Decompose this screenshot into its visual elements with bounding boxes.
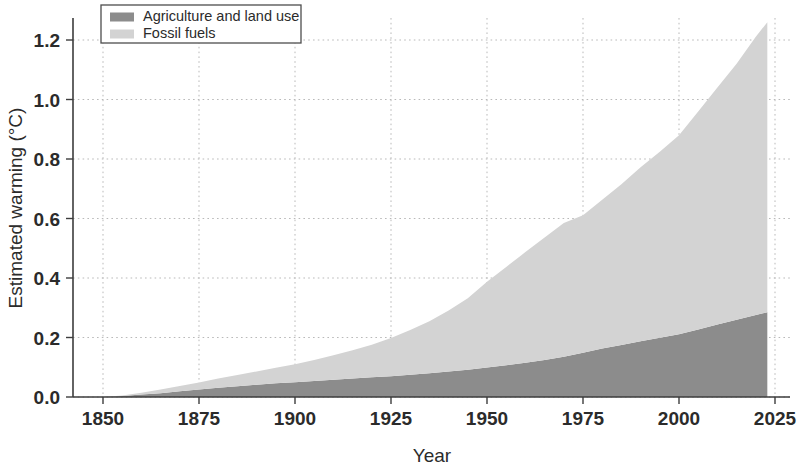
x-tick-label-1875: 1875 xyxy=(178,408,221,429)
y-tick-label-1-2: 1.2 xyxy=(34,30,60,51)
x-tick-label-1975: 1975 xyxy=(562,408,605,429)
x-axis-title: Year xyxy=(413,445,452,466)
y-tick-label-0-4: 0.4 xyxy=(34,268,61,289)
y-tick-label-0-8: 0.8 xyxy=(34,149,60,170)
x-tick-label-1850: 1850 xyxy=(82,408,124,429)
stacked-area-chart: 18501875190019251950197520002025 0.00.20… xyxy=(0,0,798,473)
x-tick-label-1925: 1925 xyxy=(370,408,413,429)
legend-label-fossil-fuels: Fossil fuels xyxy=(143,25,216,41)
legend-label-agriculture-and-land-use: Agriculture and land use xyxy=(143,8,299,24)
x-tick-label-2000: 2000 xyxy=(658,408,700,429)
y-tick-label-1: 1.0 xyxy=(34,90,60,111)
x-tick-label-1900: 1900 xyxy=(274,408,316,429)
legend-swatch-agriculture-and-land-use xyxy=(110,13,134,22)
y-axis-ticks: 0.00.20.40.60.81.01.2 xyxy=(34,30,73,408)
y-tick-label-0-2: 0.2 xyxy=(34,328,60,349)
x-axis-ticks: 18501875190019251950197520002025 xyxy=(82,397,797,429)
legend-swatch-fossil-fuels xyxy=(110,30,134,39)
chart-legend: Agriculture and land use Fossil fuels xyxy=(101,5,301,43)
x-tick-label-1950: 1950 xyxy=(466,408,508,429)
series-areas xyxy=(103,22,767,397)
y-axis-title: Estimated warming (°C) xyxy=(5,108,26,309)
chart-figure: 18501875190019251950197520002025 0.00.20… xyxy=(0,0,798,473)
y-tick-label-0-6: 0.6 xyxy=(34,209,60,230)
y-tick-label-0: 0.0 xyxy=(34,387,60,408)
x-tick-label-2025: 2025 xyxy=(754,408,797,429)
